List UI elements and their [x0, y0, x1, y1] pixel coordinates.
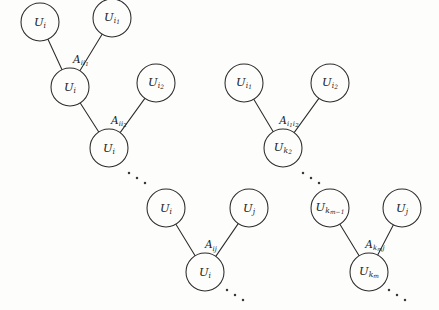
ellipsis-dot — [226, 289, 229, 292]
tree-edge — [80, 103, 99, 132]
ellipsis-dot — [242, 299, 245, 302]
tree-edge — [48, 39, 62, 69]
ellipsis-dot — [404, 299, 407, 302]
tree-edge — [216, 224, 238, 257]
edge-label: Aii1 — [73, 54, 89, 68]
node-label: Ukm — [359, 265, 379, 280]
node-label: Uj — [396, 202, 408, 215]
node-label: Ui2 — [322, 76, 338, 91]
tree-edge — [340, 224, 359, 256]
node-label: Ui — [64, 81, 76, 94]
node-label: Uj — [243, 202, 255, 215]
node-label: Ui — [199, 266, 211, 279]
edge-label: Akmj — [365, 239, 384, 253]
tree-edge — [176, 224, 195, 256]
node-label: Ukm−1 — [315, 201, 344, 216]
node-label: Ui — [103, 142, 115, 155]
tree-diagram-figure: UiUi1UiUi2UiUi1Ui2Uk2UiUjUiUkm−1UjUkmAii… — [0, 0, 439, 310]
ellipsis-dot — [136, 177, 139, 180]
node-label: Ui — [34, 16, 46, 29]
node-label: Ui2 — [148, 76, 164, 91]
node-label: Ui — [160, 202, 172, 215]
edge-label: Aii2 — [111, 115, 127, 129]
diagram-canvas — [0, 0, 439, 310]
ellipsis-dot — [144, 182, 147, 185]
ellipsis-dot — [302, 172, 305, 175]
ellipsis-dot — [318, 182, 321, 185]
ellipsis-dot — [234, 294, 237, 297]
ellipsis-dot — [310, 177, 313, 180]
edge-label: Ai1i2 — [279, 115, 298, 129]
node-label: Ui1 — [236, 76, 252, 91]
ellipsis-dot — [388, 289, 391, 292]
ellipsis-dot — [396, 294, 399, 297]
ellipsis-dot — [128, 172, 131, 175]
edge-label: Aij — [205, 239, 217, 252]
tree-edge — [254, 99, 273, 131]
node-label: Uk2 — [274, 141, 292, 156]
node-label: Ui1 — [104, 11, 120, 26]
